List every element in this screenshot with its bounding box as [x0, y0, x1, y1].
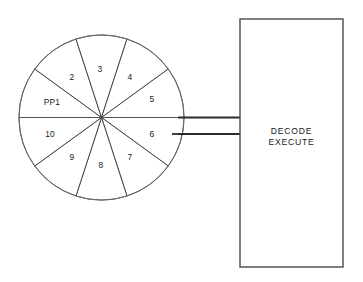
pipeline-diagram: PP12345678910 DECODEEXECUTE: [0, 0, 363, 282]
unit-box-labels: DECODEEXECUTE: [269, 126, 315, 147]
sector-label-s6: 6: [150, 129, 155, 139]
sector-label-s2: 2: [70, 72, 75, 82]
sector-label-s4: 4: [128, 72, 133, 82]
sector-label-s8: 8: [99, 160, 104, 170]
sector-label-s3: 3: [98, 64, 103, 74]
sector-label-s5: 5: [150, 94, 155, 104]
sector-label-s7: 7: [128, 152, 133, 162]
diagram-canvas: PP12345678910 DECODEEXECUTE: [0, 0, 363, 282]
sector-label-s9: 9: [70, 152, 75, 162]
sector-label-pp1: PP1: [44, 97, 61, 107]
sector-label-s10: 10: [45, 129, 55, 139]
unit-box-line-2: EXECUTE: [269, 137, 315, 147]
unit-box-line-1: DECODE: [271, 126, 312, 136]
